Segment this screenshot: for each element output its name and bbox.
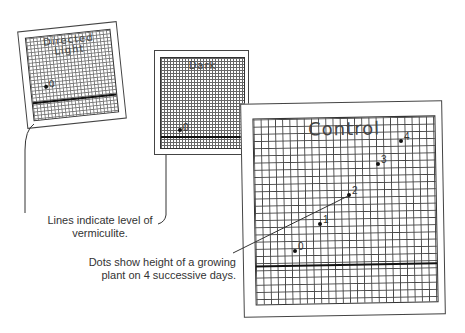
point-label: 2 bbox=[352, 185, 358, 196]
control-grid: Control bbox=[252, 115, 438, 305]
control-card: Control bbox=[240, 100, 446, 317]
point-label: 4 bbox=[404, 131, 410, 142]
data-point bbox=[376, 162, 380, 166]
data-point bbox=[318, 222, 322, 226]
point-label: 0 bbox=[48, 78, 55, 90]
vermiculite-line bbox=[256, 262, 437, 267]
dark-card: Dark 0 bbox=[154, 50, 249, 155]
point-label: 0 bbox=[183, 122, 189, 133]
dark-grid: Dark 0 bbox=[160, 57, 245, 149]
directed-light-grid: Directed Light 0 bbox=[25, 29, 119, 122]
point-label: 3 bbox=[381, 154, 387, 165]
data-point bbox=[293, 249, 297, 253]
point-label: 0 bbox=[298, 241, 304, 252]
data-point bbox=[399, 139, 403, 143]
vermiculite-caption: Lines indicate level of vermiculite. bbox=[30, 214, 170, 240]
dots-caption: Dots show height of a growing plant on 4… bbox=[56, 256, 236, 282]
directed-light-title: Directed Light bbox=[26, 31, 112, 60]
data-point bbox=[178, 128, 182, 132]
vermiculite-line bbox=[161, 136, 244, 138]
data-point bbox=[347, 193, 351, 197]
vermiculite-line bbox=[33, 93, 117, 104]
data-point bbox=[44, 85, 48, 89]
dark-title: Dark bbox=[161, 60, 244, 71]
point-label: 1 bbox=[323, 214, 329, 225]
directed-light-card: Directed Light 0 bbox=[17, 21, 127, 129]
